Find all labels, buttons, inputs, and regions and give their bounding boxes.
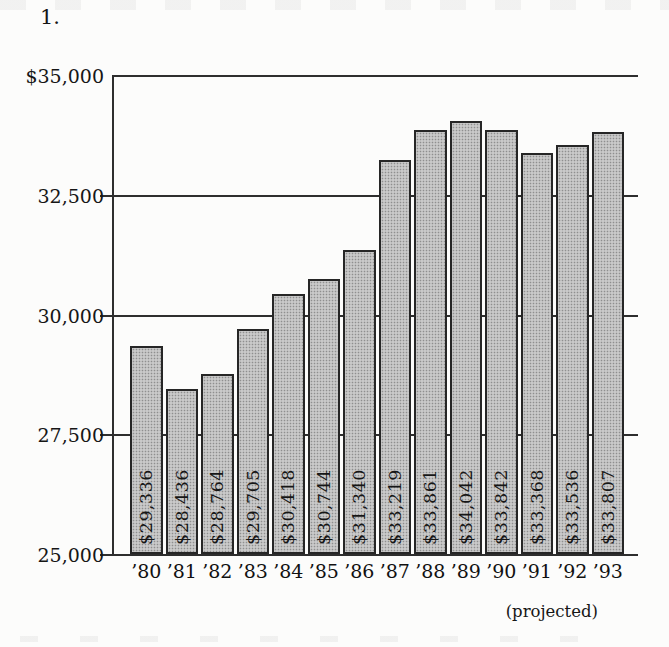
y-tick-label-25000: 25,000 (0, 544, 104, 566)
bar-value-label: $33,536 (562, 469, 582, 545)
bar-91: $33,368 (521, 153, 554, 554)
x-tick-label-86: ’86 (343, 559, 376, 583)
bar-value-label: $33,368 (527, 469, 547, 545)
x-tick-label-90: ’90 (485, 559, 518, 583)
bar-84: $30,418 (272, 294, 305, 554)
x-tick-label-87: ’87 (379, 559, 412, 583)
bars-group: $29,336$28,436$28,764$29,705$30,418$30,7… (130, 75, 624, 554)
bar-value-label: $30,418 (278, 469, 298, 545)
y-tick-label-27500: 27,500 (0, 424, 104, 446)
x-tick-label-81: ’81 (166, 559, 199, 583)
x-tick-label-91: ’91 (521, 559, 554, 583)
bar-chart: $35,00032,50030,00027,50025,000 $29,336$… (0, 0, 669, 647)
bar-value-label: $34,042 (456, 469, 476, 545)
bar-value-label: $29,336 (136, 469, 156, 545)
bar-92: $33,536 (556, 145, 589, 554)
y-axis-line (112, 75, 114, 556)
x-tick-label-83: ’83 (237, 559, 270, 583)
x-tick-label-84: ’84 (272, 559, 305, 583)
bar-83: $29,705 (237, 329, 270, 554)
bar-value-label: $33,219 (385, 469, 405, 545)
y-tick-label-30000: 30,000 (0, 305, 104, 327)
x-tick-label-89: ’89 (450, 559, 483, 583)
gridline-25000 (112, 554, 638, 556)
bar-81: $28,436 (166, 389, 199, 554)
bar-value-label: $29,705 (243, 469, 263, 545)
bar-value-label: $31,340 (349, 469, 369, 545)
x-tick-label-93: ’93 (592, 559, 625, 583)
bar-82: $28,764 (201, 374, 234, 554)
bar-value-label: $33,807 (598, 469, 618, 545)
projected-note: (projected) (430, 602, 598, 621)
y-tick-label-32500: 32,500 (0, 185, 104, 207)
bar-90: $33,842 (485, 130, 518, 554)
bar-value-label: $28,436 (172, 469, 192, 545)
bar-93: $33,807 (592, 132, 625, 554)
x-tick-label-80: ’80 (130, 559, 163, 583)
bar-86: $31,340 (343, 250, 376, 554)
x-tick-label-82: ’82 (201, 559, 234, 583)
x-tick-label-88: ’88 (414, 559, 447, 583)
bar-80: $29,336 (130, 346, 163, 554)
x-tick-label-85: ’85 (308, 559, 341, 583)
bar-value-label: $28,764 (207, 469, 227, 545)
bar-85: $30,744 (308, 279, 341, 554)
bar-87: $33,219 (379, 160, 412, 554)
scanned-textbook-page: 1. $35,00032,50030,00027,50025,000 $29,3… (0, 0, 669, 647)
bar-value-label: $30,744 (314, 469, 334, 545)
bar-88: $33,861 (414, 130, 447, 554)
y-tick-label-35000: $35,000 (0, 65, 104, 87)
bar-89: $34,042 (450, 121, 483, 554)
x-axis-labels: ’80’81’82’83’84’85’86’87’88’89’90’91’92’… (130, 559, 624, 583)
bar-value-label: $33,842 (491, 469, 511, 545)
x-tick-label-92: ’92 (556, 559, 589, 583)
bar-value-label: $33,861 (420, 469, 440, 545)
